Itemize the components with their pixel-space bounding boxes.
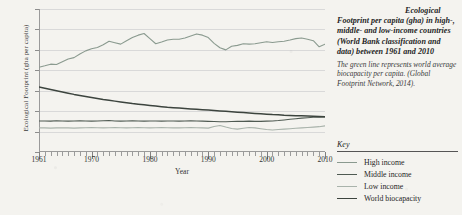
x-tick-minor: [173, 152, 174, 156]
x-tick-minor: [68, 152, 69, 156]
x-tick-label: 1970: [72, 155, 112, 164]
x-tick-label: 2000: [247, 155, 287, 164]
x-axis-title: Year: [39, 167, 325, 176]
x-tick-minor: [127, 152, 128, 156]
series-lines: [39, 9, 325, 152]
series-line: [39, 117, 325, 122]
x-tick-label: 1980: [130, 155, 170, 164]
x-tick-label: 1961: [19, 155, 59, 164]
x-tick-minor: [62, 152, 63, 156]
legend-item-label: High income: [364, 158, 405, 167]
legend-item: World biocapacity: [337, 192, 458, 204]
legend: Key High incomeMiddle incomeLow incomeWo…: [337, 140, 458, 204]
legend-item: Low income: [337, 180, 458, 192]
y-axis-title: Ecological Footprint (gha per capita): [22, 8, 30, 148]
series-line: [39, 125, 325, 130]
figure-caption: Ecological Footprint per capita (gha) in…: [337, 6, 457, 88]
x-tick-minor: [237, 152, 238, 156]
legend-title: Key: [337, 140, 458, 149]
legend-swatch-line-icon: [337, 198, 357, 199]
x-tick-minor: [302, 152, 303, 156]
x-tick-minor: [121, 152, 122, 156]
caption-heading: Ecological Footprint per capita (gha) in…: [337, 6, 457, 57]
legend-item-label: Low income: [364, 182, 403, 191]
legend-item-label: World biocapacity: [364, 194, 421, 203]
x-tick-label: 1990: [188, 155, 228, 164]
legend-swatch-line-icon: [337, 162, 357, 163]
chart-area: Ecological Footprint (gha per capita) 01…: [0, 0, 330, 215]
caption-subtext: The green line represents world average …: [337, 60, 457, 88]
x-tick-minor: [290, 152, 291, 156]
x-tick-minor: [296, 152, 297, 156]
legend-item: Middle income: [337, 168, 458, 180]
legend-swatch-line-icon: [337, 186, 357, 187]
series-line: [39, 34, 325, 68]
figure-root: Ecological Footprint (gha per capita) 01…: [0, 0, 462, 215]
x-tick-minor: [243, 152, 244, 156]
legend-items: High incomeMiddle incomeLow incomeWorld …: [337, 156, 458, 204]
x-tick-minor: [179, 152, 180, 156]
legend-item: High income: [337, 156, 458, 168]
legend-item-label: Middle income: [364, 170, 411, 179]
x-tick-minor: [185, 152, 186, 156]
x-tick-minor: [115, 152, 116, 156]
series-line: [39, 87, 325, 117]
legend-swatch-line-icon: [337, 174, 357, 175]
plot-area: [39, 9, 325, 152]
legend-divider: [337, 151, 458, 152]
x-tick-minor: [232, 152, 233, 156]
